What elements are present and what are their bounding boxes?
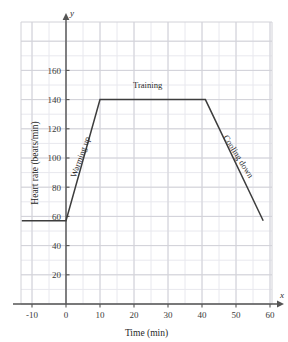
x-tick-label-50: 50 bbox=[232, 310, 242, 320]
annotation-training: Training bbox=[133, 80, 163, 90]
x-tick-label-60: 60 bbox=[266, 310, 276, 320]
x-tick-label-40: 40 bbox=[198, 310, 208, 320]
x-axis-name: x bbox=[279, 290, 284, 300]
y-axis-title: Heart rate (beats/min) bbox=[30, 121, 41, 204]
y-tick-label-140: 140 bbox=[48, 95, 62, 105]
x-tick-label-10: 10 bbox=[96, 310, 106, 320]
y-tick-label-160: 160 bbox=[48, 66, 62, 76]
x-axis-title: Time (min) bbox=[125, 328, 168, 339]
x-tick-label-20: 20 bbox=[130, 310, 140, 320]
x-tick-label-0: 0 bbox=[64, 310, 69, 320]
x-tick-label-30: 30 bbox=[164, 310, 174, 320]
y-tick-label-20: 20 bbox=[52, 270, 62, 280]
y-tick-label-40: 40 bbox=[52, 241, 62, 251]
x-tick-label--10: -10 bbox=[26, 310, 38, 320]
y-tick-label-100: 100 bbox=[48, 153, 62, 163]
y-tick-label-80: 80 bbox=[52, 183, 62, 193]
y-tick-label-120: 120 bbox=[48, 124, 62, 134]
heart-rate-chart: -10010203040506020406080100120140160xyTi… bbox=[0, 0, 288, 342]
y-axis-name: y bbox=[69, 8, 74, 18]
chart-canvas: -10010203040506020406080100120140160xyTi… bbox=[0, 0, 288, 342]
